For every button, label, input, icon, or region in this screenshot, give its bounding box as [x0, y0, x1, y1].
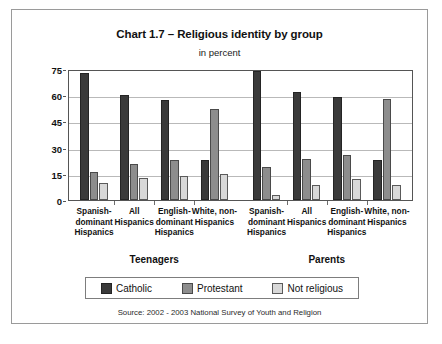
category-label-line: Hispanics — [190, 217, 238, 228]
bar-catholic — [373, 160, 382, 200]
y-axis-tick-mark — [63, 70, 66, 71]
y-axis-tick-label: 45 — [51, 117, 62, 128]
legend-item-notreligious: Not religious — [272, 283, 343, 294]
chart-subtitle: in percent — [12, 47, 427, 58]
category-tick — [194, 201, 195, 205]
bar-catholic — [120, 95, 129, 200]
bar-notreligious — [272, 195, 281, 200]
y-axis-tick-mark — [63, 175, 66, 176]
panel-group-label: Parents — [241, 254, 414, 265]
bar-notreligious — [352, 179, 361, 200]
category-label-line: White, non- — [363, 206, 411, 217]
bar-protestant — [210, 109, 219, 200]
category-label-line: Hispanics — [363, 217, 411, 228]
legend-item-protestant: Protestant — [182, 283, 243, 294]
bar-notreligious — [220, 174, 229, 200]
category-tick — [367, 201, 368, 205]
category-tick — [154, 201, 155, 205]
bar-notreligious — [139, 178, 148, 200]
chart-source: Source: 2002 - 2003 National Survey of Y… — [12, 308, 427, 317]
legend-item-catholic: Catholic — [101, 283, 152, 294]
legend-swatch-catholic — [101, 283, 112, 294]
bar-notreligious — [392, 185, 401, 200]
legend-label: Not religious — [287, 283, 343, 294]
bar-catholic — [80, 73, 89, 200]
bar-catholic — [161, 100, 170, 200]
y-axis-tick-mark — [63, 122, 66, 123]
category-tick — [287, 201, 288, 205]
bar-catholic — [201, 160, 210, 200]
category-label-line: Hispanics — [243, 227, 291, 238]
chart-legend: CatholicProtestantNot religious — [85, 277, 359, 299]
bar-protestant — [90, 172, 99, 200]
y-axis-tick-mark — [63, 96, 66, 97]
bar-catholic — [293, 92, 302, 200]
y-axis-tick-label: 75 — [51, 65, 62, 76]
category-label-line: White, non- — [190, 206, 238, 217]
bar-protestant — [262, 167, 271, 200]
category-label-line: Hispanics — [70, 227, 118, 238]
category-label-line: Hispanics — [150, 227, 198, 238]
legend-swatch-protestant — [182, 283, 193, 294]
bar-protestant — [130, 164, 139, 200]
bar-notreligious — [312, 185, 321, 200]
category-label: White, non-Hispanics — [190, 206, 238, 227]
bar-protestant — [343, 155, 352, 200]
bar-protestant — [170, 160, 179, 200]
y-axis-tick-label: 30 — [51, 143, 62, 154]
bar-catholic — [333, 97, 342, 200]
category-labels: Spanish-dominantHispanicsAllHispanicsEng… — [68, 206, 413, 252]
y-axis-tick-mark — [63, 149, 66, 150]
panel-group-label: Teenagers — [68, 254, 241, 265]
category-label: White, non-Hispanics — [363, 206, 411, 227]
chart-card: Chart 1.7 – Religious identity by group … — [11, 9, 428, 324]
bar-notreligious — [99, 183, 108, 200]
legend-label: Catholic — [116, 283, 152, 294]
category-tick — [114, 201, 115, 205]
category-tick — [327, 201, 328, 205]
y-axis: 01530456075 — [38, 64, 66, 207]
legend-label: Protestant — [197, 283, 243, 294]
bar-notreligious — [180, 176, 189, 200]
y-axis-tick-label: 15 — [51, 169, 62, 180]
legend-swatch-notreligious — [272, 283, 283, 294]
chart-page: Chart 1.7 – Religious identity by group … — [0, 0, 442, 344]
bar-catholic — [253, 71, 262, 200]
bars-layer — [68, 70, 413, 201]
bar-protestant — [383, 99, 392, 200]
y-axis-tick-label: 0 — [57, 196, 62, 207]
chart-title: Chart 1.7 – Religious identity by group — [12, 28, 427, 40]
y-axis-tick-mark — [63, 201, 66, 202]
y-axis-tick-label: 60 — [51, 91, 62, 102]
bar-protestant — [302, 159, 311, 200]
category-label-line: Hispanics — [323, 227, 371, 238]
